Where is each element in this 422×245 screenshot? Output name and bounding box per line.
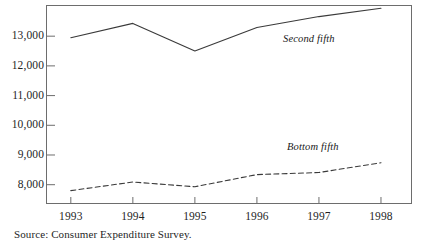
- source-note: Source: Consumer Expenditure Survey.: [14, 228, 192, 240]
- series-annotation-bottom-fifth: Bottom fifth: [287, 141, 339, 152]
- x-tick-label: 1993: [41, 210, 101, 222]
- x-tick-label: 1996: [227, 210, 287, 222]
- x-axis-labels: 199319941995199619971998: [0, 0, 422, 245]
- x-tick-label: 1997: [289, 210, 349, 222]
- series-annotation-second-fifth: Second fifth: [283, 33, 335, 44]
- x-tick-label: 1994: [103, 210, 163, 222]
- x-tick-label: 1998: [351, 210, 411, 222]
- x-tick-label: 1995: [165, 210, 225, 222]
- line-chart-figure: 8,0009,00010,00011,00012,00013,000 19931…: [0, 0, 422, 245]
